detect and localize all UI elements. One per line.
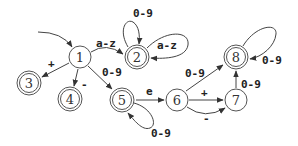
svg-text:3: 3	[25, 76, 33, 91]
svg-text:2: 2	[133, 50, 141, 65]
edge-label-6-7-plus: +	[201, 86, 208, 99]
state-diagram: + a-z - 0-9 0-9 a-z e 0-9 0-9 + - 0-9 0-…	[0, 0, 298, 146]
edge-label-8-8: 0-9	[262, 54, 282, 67]
edge-label-1-5: 0-9	[102, 66, 122, 79]
state-2: 2	[125, 45, 149, 69]
edge-start-1	[38, 32, 72, 47]
svg-text:1: 1	[76, 50, 84, 65]
svg-text:5: 5	[118, 93, 126, 108]
state-4: 4	[58, 87, 82, 111]
edge-label-5-5: 0-9	[151, 127, 171, 140]
edge-1-4	[74, 69, 78, 86]
edge-label-7-8: 0-9	[241, 78, 261, 91]
edge-label-1-4: -	[81, 78, 88, 91]
edge-1-3	[42, 63, 69, 77]
edge-label-6-8: 0-9	[185, 67, 205, 80]
edge-label-1-2: a-z	[96, 37, 116, 50]
edge-2-2-top	[123, 21, 139, 47]
state-8: 8	[224, 45, 248, 69]
state-5: 5	[110, 88, 134, 112]
edge-label-2-2-right: a-z	[157, 39, 177, 52]
edge-label-5-6: e	[146, 85, 153, 98]
state-3: 3	[17, 71, 41, 95]
state-7: 7	[225, 89, 247, 111]
svg-text:6: 6	[173, 93, 181, 108]
svg-text:4: 4	[66, 92, 74, 107]
svg-text:7: 7	[232, 93, 240, 108]
edge-label-6-7-minus: -	[203, 112, 210, 125]
svg-text:8: 8	[232, 50, 240, 65]
state-6: 6	[166, 89, 188, 111]
state-1: 1	[69, 46, 91, 68]
edge-label-start-plus: +	[48, 57, 55, 70]
edge-label-2-2-top: 0-9	[133, 7, 153, 20]
